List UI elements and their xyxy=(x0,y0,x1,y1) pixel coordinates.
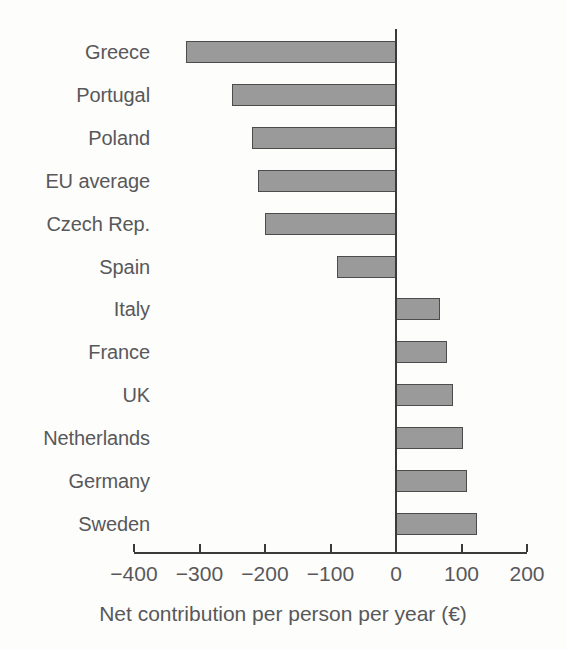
x-axis-tick-label: −300 xyxy=(176,562,223,586)
x-axis-tick-label: −100 xyxy=(307,562,354,586)
bar xyxy=(396,341,447,363)
x-axis-tick xyxy=(264,544,266,552)
bar xyxy=(396,470,467,492)
x-axis-tick xyxy=(461,544,463,552)
x-axis-tick xyxy=(199,544,201,552)
x-axis-tick-label: 0 xyxy=(390,562,402,586)
bar xyxy=(396,513,477,535)
x-axis-line xyxy=(134,552,527,554)
zero-axis-line xyxy=(395,29,397,552)
x-axis-tick xyxy=(395,544,397,552)
bar xyxy=(258,170,396,192)
x-axis-tick-label: −400 xyxy=(110,562,157,586)
bar xyxy=(337,256,396,278)
bar xyxy=(252,127,396,149)
x-axis-tick xyxy=(133,544,135,552)
x-axis-tick-label: 200 xyxy=(509,562,544,586)
plot-area xyxy=(0,0,566,560)
x-axis-tick xyxy=(330,544,332,552)
bar xyxy=(265,213,396,235)
bar xyxy=(396,384,453,406)
x-axis-tick-label: −200 xyxy=(241,562,288,586)
x-axis-tick-label: 100 xyxy=(444,562,479,586)
x-axis-tick xyxy=(526,544,528,552)
bar xyxy=(396,298,440,320)
x-axis-title: Net contribution per person per year (€) xyxy=(0,602,566,626)
bar xyxy=(232,84,396,106)
bar xyxy=(396,427,463,449)
bar xyxy=(186,41,396,63)
bar-chart: GreecePortugalPolandEU averageCzech Rep.… xyxy=(0,0,566,650)
